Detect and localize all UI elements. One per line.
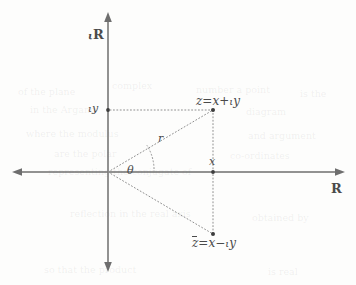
imaginary-axis-arrow-bottom: [104, 262, 112, 272]
tick-marker-x: [211, 170, 215, 174]
point-label-z-bar: z=x−ιy: [192, 236, 236, 249]
real-tick-label: x: [209, 156, 215, 167]
point-label-z-equals: =: [202, 94, 212, 108]
imaginary-tick-label: ιy: [88, 103, 98, 114]
diagram-canvas: [0, 0, 356, 285]
imaginary-axis-arrow-top: [104, 12, 112, 22]
imaginary-tick-value: y: [92, 102, 98, 115]
imaginary-axis-label: ιR: [88, 28, 104, 41]
point-label-z-bar-equals: =: [198, 236, 208, 250]
angle-label: θ: [127, 165, 134, 176]
point-label-z-bar-symbol: z: [192, 236, 198, 249]
real-axis-label: R: [331, 182, 342, 195]
real-axis-arrow-right: [335, 168, 345, 176]
point-label-z: z=x+ιy: [196, 95, 240, 107]
point-label-z-bar-imag: y: [229, 236, 236, 250]
radius-label: r: [158, 133, 163, 144]
argand-diagram-figure: of the planecomplexnumber a pointis thei…: [0, 0, 356, 285]
dotted-line-radius-conjugate: [108, 172, 213, 234]
real-axis-arrow-left: [12, 168, 22, 176]
point-marker-z: [211, 108, 215, 112]
axes-group: [12, 12, 345, 272]
imaginary-axis-letter: R: [93, 27, 104, 42]
point-label-z-imag: y: [233, 94, 240, 108]
point-label-z-bar-operator: −: [215, 236, 225, 250]
tick-marker-iy: [106, 108, 110, 112]
angle-arc-theta: [147, 146, 154, 172]
point-label-z-operator: +: [219, 94, 229, 108]
